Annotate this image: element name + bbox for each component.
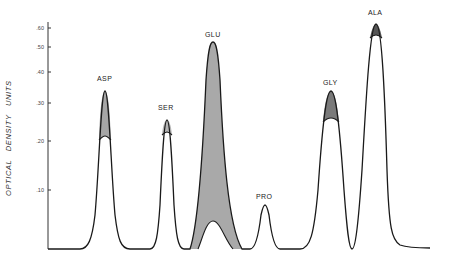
ser-shaded-region [162, 120, 172, 135]
peak-label-ser: SER [158, 104, 174, 111]
y-axis-title: OPTICAL DENSITY UNITS [4, 80, 13, 196]
peak-label-ala: ALA [368, 9, 382, 16]
peak-label-glu: GLU [205, 31, 221, 38]
glu-shaded-region [190, 42, 242, 249]
chromatogram-chart [0, 0, 453, 261]
y-tick-label: .60 [24, 25, 44, 31]
y-tick-label: .20 [24, 138, 44, 144]
peak-label-gly: GLY [323, 79, 338, 86]
peak-label-pro: PRO [256, 193, 272, 200]
y-tick-label: .30 [24, 100, 44, 106]
peak-label-asp: ASP [97, 75, 112, 82]
y-tick-label: .50 [24, 44, 44, 50]
y-tick-label: .10 [24, 187, 44, 193]
y-tick-label: .40 [24, 69, 44, 75]
